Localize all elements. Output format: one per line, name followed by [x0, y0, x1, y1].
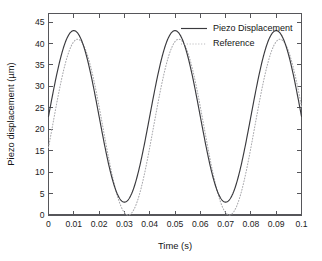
piezo-displacement-chart: 00.010.020.030.040.050.060.070.080.090.1… — [0, 0, 322, 261]
y-tick-label: 15 — [35, 146, 45, 156]
y-tick-label: 30 — [35, 81, 45, 91]
y-tick-label: 35 — [35, 60, 45, 70]
x-axis-title: Time (s) — [158, 240, 192, 251]
x-tick-label: 0.05 — [167, 219, 184, 229]
legend-label-piezo-displacement: Piezo Displacement — [213, 23, 293, 33]
x-tick-label: 0.07 — [217, 219, 234, 229]
x-tick-label: 0.08 — [243, 219, 260, 229]
x-tick-label: 0.09 — [268, 219, 285, 229]
y-tick-label: 40 — [35, 39, 45, 49]
y-tick-label: 20 — [35, 124, 45, 134]
x-tick-label: 0.06 — [192, 219, 209, 229]
chart-figure: 00.010.020.030.040.050.060.070.080.090.1… — [0, 0, 322, 261]
x-tick-label: 0.01 — [65, 219, 82, 229]
x-tick-label: 0.04 — [141, 219, 158, 229]
y-tick-label: 0 — [40, 210, 45, 220]
x-tick-label: 0.03 — [116, 219, 133, 229]
y-tick-label: 10 — [35, 167, 45, 177]
legend-label-reference: Reference — [213, 38, 255, 48]
x-tick-label: 0.1 — [296, 219, 308, 229]
x-tick-label: 0 — [46, 219, 51, 229]
y-axis-title: Piezo displacement (µm) — [5, 62, 16, 165]
y-tick-label: 25 — [35, 103, 45, 113]
y-tick-label: 45 — [35, 17, 45, 27]
y-tick-label: 5 — [40, 189, 45, 199]
x-tick-label: 0.02 — [91, 219, 108, 229]
